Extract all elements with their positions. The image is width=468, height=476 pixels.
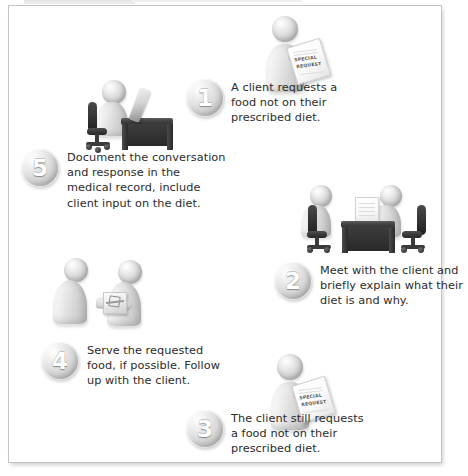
step-3-line-1: The client still requests xyxy=(231,411,401,426)
step-1-number: 1 xyxy=(197,87,213,110)
step-3-caption: The client still requests a food not on … xyxy=(231,411,401,457)
step-2-caption: Meet with the client and briefly explain… xyxy=(320,263,468,309)
step-1-line-3: prescribed diet. xyxy=(231,110,386,125)
food-tray-icon xyxy=(103,292,127,314)
step-4-badge: 4 xyxy=(41,342,79,380)
step-2-artwork xyxy=(307,181,427,257)
office-chair-icon xyxy=(86,102,116,152)
office-chair-icon xyxy=(399,205,427,253)
person-head-icon xyxy=(272,16,298,42)
desk-front-icon xyxy=(127,124,169,146)
step-4-line-2: food, if possible. Follow xyxy=(87,358,252,373)
step-1-caption: A client requests a food not on their pr… xyxy=(231,80,386,126)
step-4-line-1: Serve the requested xyxy=(87,343,252,358)
staff-head-icon xyxy=(310,185,332,207)
step-5-badge: 5 xyxy=(21,149,59,187)
step-2-line-1: Meet with the client and xyxy=(320,263,468,278)
office-chair-icon xyxy=(307,205,335,253)
step-4-line-3: up with the client. xyxy=(87,373,252,388)
step-2-number: 2 xyxy=(285,270,301,293)
step-5-line-1: Document the conversation xyxy=(67,150,242,165)
step-3-line-2: a food not on their xyxy=(231,426,401,441)
step-5-number: 5 xyxy=(32,157,48,180)
staff-head-icon xyxy=(64,258,88,282)
step-4-artwork xyxy=(64,254,174,332)
desk-leg-icon xyxy=(167,124,173,150)
desk-front-icon xyxy=(347,227,389,251)
step-1-badge: 1 xyxy=(186,79,224,117)
step-5-line-3: medical record, include xyxy=(67,180,242,195)
figure-caption-tab xyxy=(24,0,135,4)
step-2-badge: 2 xyxy=(274,262,312,300)
staff-body-icon xyxy=(53,280,87,324)
step-2-line-2: briefly explain what their xyxy=(320,278,468,293)
step-2-line-3: diet is and why. xyxy=(320,293,468,308)
step-3-line-3: prescribed diet. xyxy=(231,441,401,456)
step-1-line-1: A client requests a xyxy=(231,80,386,95)
desk-leg-icon xyxy=(122,124,128,150)
step-5-line-4: client input on the diet. xyxy=(67,196,242,211)
desk-leg-icon xyxy=(389,227,395,253)
worker-head-icon xyxy=(102,80,126,104)
client-head-icon xyxy=(380,185,402,207)
person-head-icon xyxy=(277,354,303,380)
desk-leg-icon xyxy=(342,227,348,253)
step-5-line-2: and response in the xyxy=(67,165,242,180)
step-5-artwork xyxy=(72,78,177,150)
step-3-number: 3 xyxy=(197,418,213,441)
figure-caption-strip xyxy=(132,0,302,2)
step-1-line-2: food not on their xyxy=(231,95,386,110)
step-5-caption: Document the conversation and response i… xyxy=(67,150,242,211)
step-4-caption: Serve the requested food, if possible. F… xyxy=(87,343,252,389)
client-head-icon xyxy=(118,260,142,284)
diagram-stage: SPECIAL REQUEST 1 A client requests a fo… xyxy=(9,6,441,462)
diagram-frame: SPECIAL REQUEST 1 A client requests a fo… xyxy=(8,5,442,463)
step-4-number: 4 xyxy=(52,350,68,373)
step-3-badge: 3 xyxy=(186,410,224,448)
